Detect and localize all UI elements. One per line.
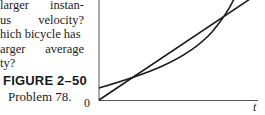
x-axis-label: t xyxy=(253,100,256,115)
origin-label: 0 xyxy=(84,96,90,111)
position-time-plot xyxy=(0,0,265,115)
straight-line xyxy=(99,0,250,100)
curved-line xyxy=(99,0,234,88)
